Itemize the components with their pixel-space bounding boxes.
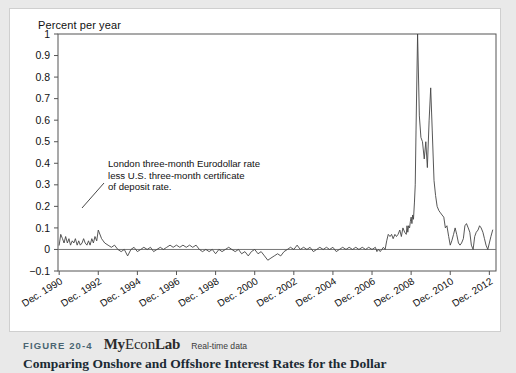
y-tick-label: 0.2 <box>35 200 50 212</box>
annotation-line: less U.S. three-month certificate <box>108 170 245 181</box>
x-tick-label: Dec. 1992 <box>59 275 104 309</box>
y-tick-label: 0 <box>44 243 50 255</box>
x-tick-label: Dec. 2000 <box>215 275 260 309</box>
x-tick-label: Dec. 1994 <box>98 275 143 309</box>
x-tick-label: Dec. 1996 <box>137 275 182 309</box>
figure-title: Comparing Onshore and Offshore Interest … <box>9 356 509 372</box>
y-tick-label: 0.9 <box>35 49 50 61</box>
caption-top-row: FIGURE 20-4 MyEconLab Real-time data <box>9 336 509 353</box>
x-tick-label: Dec. 2012 <box>450 275 495 309</box>
y-tick-label: 0.1 <box>35 222 50 234</box>
x-tick-label: Dec. 2004 <box>293 275 338 309</box>
y-tick-label: 0.5 <box>35 135 50 147</box>
y-tick-label: 1 <box>44 28 50 40</box>
y-tick-label: 0.6 <box>35 114 50 126</box>
figure-number: FIGURE 20-4 <box>23 340 93 351</box>
annotation-leader-line <box>82 183 104 208</box>
plot-frame <box>58 34 496 271</box>
y-tick-label: 0.7 <box>35 92 50 104</box>
annotation-line: of deposit rate. <box>108 181 171 192</box>
chart-layers: 10.90.80.70.60.50.40.30.20.10−0.1Dec. 19… <box>20 28 496 309</box>
figure-caption: FIGURE 20-4 MyEconLab Real-time data Com… <box>9 336 509 372</box>
x-tick-label: Dec. 1990 <box>20 275 65 309</box>
annotation-line: London three-month Eurodollar rate <box>108 158 260 169</box>
myeconlab-logo: MyEconLab <box>104 336 181 353</box>
y-tick-label: 0.8 <box>35 71 50 83</box>
x-tick-label: Dec. 1998 <box>176 275 221 309</box>
y-tick-label: 0.4 <box>35 157 50 169</box>
brand-my: My <box>104 336 125 352</box>
brand-lab: Lab <box>155 336 180 352</box>
chart-card: Percent per year 10.90.80.70.60.50.40.30… <box>9 8 501 332</box>
figure-panel: Percent per year 10.90.80.70.60.50.40.30… <box>0 0 516 373</box>
y-tick-label: −0.1 <box>29 265 50 277</box>
y-tick-label: 0.3 <box>35 178 50 190</box>
x-tick-label: Dec. 2006 <box>333 275 378 309</box>
x-tick-label: Dec. 2002 <box>254 275 299 309</box>
x-tick-label: Dec. 2010 <box>411 275 456 309</box>
brand-econ: Econ <box>125 336 155 352</box>
line-chart: 10.90.80.70.60.50.40.30.20.10−0.1Dec. 19… <box>10 9 502 333</box>
series-line <box>59 34 493 260</box>
x-tick-label: Dec. 2008 <box>372 275 417 309</box>
realtime-data-label: Real-time data <box>191 341 247 351</box>
